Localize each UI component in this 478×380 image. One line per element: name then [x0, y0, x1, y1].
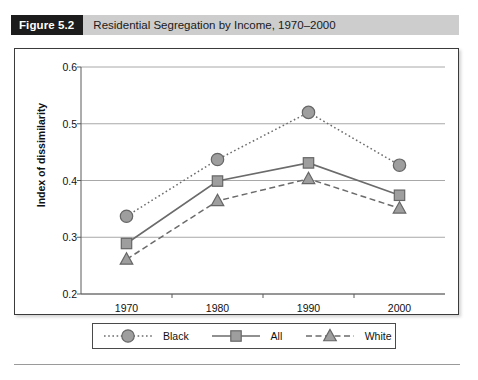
- data-point-triangle: [393, 202, 406, 213]
- data-point-circle: [393, 159, 405, 171]
- footer-divider: [14, 364, 460, 365]
- chart-frame: Index of dissimilarity 0.20.30.40.50.6 1…: [14, 48, 459, 315]
- series-all: [121, 158, 404, 249]
- legend-label: All: [261, 330, 283, 342]
- legend-sample-circle-icon: [103, 328, 153, 344]
- legend-entry-black: Black: [93, 324, 211, 348]
- data-point-square: [230, 331, 240, 341]
- legend-sample-square-icon: [211, 328, 261, 344]
- data-point-square: [212, 176, 222, 186]
- data-point-triangle: [302, 172, 315, 183]
- data-point-circle: [122, 330, 134, 342]
- chart-legend: BlackAllWhite: [92, 323, 396, 349]
- figure-title: Residential Segregation by Income, 1970–…: [83, 15, 459, 35]
- legend-entry-white: White: [305, 324, 395, 348]
- line-chart-plot: [15, 49, 460, 316]
- data-point-circle: [302, 106, 314, 118]
- series-line: [127, 179, 400, 260]
- legend-label: Black: [153, 330, 189, 342]
- figure-number-badge: Figure 5.2: [11, 15, 83, 35]
- data-point-square: [121, 238, 131, 248]
- legend-entry-all: All: [211, 324, 305, 348]
- data-point-circle: [211, 153, 223, 165]
- legend-label: White: [355, 330, 392, 342]
- series-line: [127, 112, 400, 216]
- data-point-triangle: [323, 329, 336, 340]
- data-point-triangle: [120, 253, 133, 264]
- data-point-triangle: [211, 194, 224, 205]
- data-point-square: [303, 158, 313, 168]
- series-line: [127, 163, 400, 244]
- legend-sample-triangle-icon: [305, 328, 355, 344]
- figure-header: Figure 5.2 Residential Segregation by In…: [11, 15, 459, 35]
- plot-area: Index of dissimilarity 0.20.30.40.50.6 1…: [15, 49, 460, 316]
- data-point-circle: [120, 210, 132, 222]
- data-point-square: [394, 190, 404, 200]
